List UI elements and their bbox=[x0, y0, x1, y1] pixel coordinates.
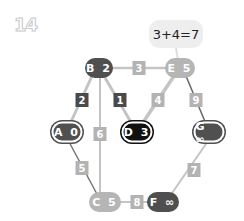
edge-weight-e-g: 9 bbox=[190, 93, 203, 107]
node-c-label: C 5 bbox=[92, 196, 118, 209]
node-d-label: D 3 bbox=[124, 126, 151, 139]
node-e-label: E 5 bbox=[168, 62, 193, 75]
node-g[interactable]: G ∞ bbox=[196, 124, 223, 141]
edge-weight-a-c: 5 bbox=[76, 161, 89, 175]
node-c[interactable]: C 5 bbox=[89, 192, 121, 212]
edge-weight-b-a: 2 bbox=[76, 93, 89, 107]
node-a-label: A 0 bbox=[54, 126, 80, 139]
node-f-label: F ∞ bbox=[150, 196, 177, 209]
node-g-label: G ∞ bbox=[196, 119, 223, 145]
edge-weight-b-d: 1 bbox=[114, 93, 127, 107]
puzzle-number: 14 bbox=[14, 14, 37, 35]
sum-bubble-text: 3+4=7 bbox=[153, 27, 200, 42]
edge-weight-c-f: 8 bbox=[131, 195, 144, 209]
edge-weight-b-c: 6 bbox=[94, 127, 107, 141]
edge-weight-g-f: 7 bbox=[188, 163, 201, 177]
node-f[interactable]: F ∞ bbox=[147, 192, 179, 212]
edge-weight-e-d: 4 bbox=[152, 93, 165, 107]
node-a[interactable]: A 0 bbox=[54, 124, 81, 141]
sum-bubble: 3+4=7 bbox=[149, 20, 203, 48]
node-d[interactable]: D 3 bbox=[124, 124, 151, 141]
node-b-label: B 2 bbox=[86, 62, 112, 75]
node-b[interactable]: B 2 bbox=[85, 58, 113, 78]
node-e[interactable]: E 5 bbox=[165, 58, 195, 78]
edge-weight-b-e: 3 bbox=[133, 61, 146, 75]
